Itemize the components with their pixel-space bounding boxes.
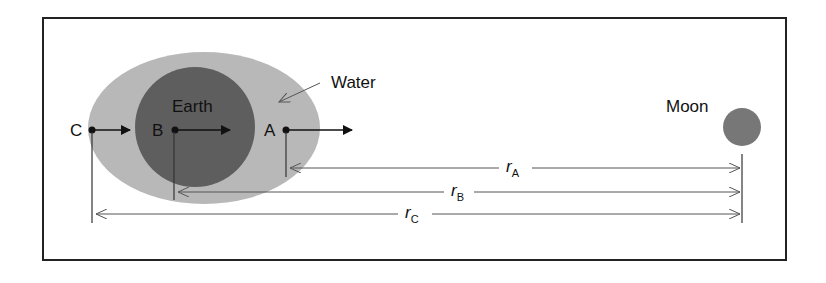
moon-label: Moon <box>666 97 709 116</box>
point-a-label: A <box>264 121 276 140</box>
r-b-subscript: B <box>457 191 464 203</box>
earth-label: Earth <box>172 97 213 116</box>
point-c-label: C <box>70 121 82 140</box>
r-a-subscript: A <box>512 167 520 179</box>
water-label: Water <box>331 73 376 92</box>
point-b-label: B <box>152 121 163 140</box>
tidal-force-diagram: Earth Water Moon C B A rA rB rC <box>0 0 826 283</box>
moon-body <box>723 108 761 146</box>
r-c-subscript: C <box>411 213 419 225</box>
